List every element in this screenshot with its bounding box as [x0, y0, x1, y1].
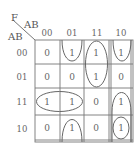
cell-r1-c3: 0: [118, 72, 124, 82]
row-header-10: 10: [17, 124, 28, 134]
row-header-00: 00: [17, 48, 28, 58]
row-header-01: 01: [17, 72, 28, 82]
cell-r0-c2: 1: [93, 48, 99, 58]
cell-r2-c1: 1: [69, 97, 75, 107]
cell-r1-c1: 0: [69, 72, 75, 82]
cell-r2-c0: 1: [44, 97, 50, 107]
col-header-00: 00: [42, 28, 53, 38]
cell-r3-c1: 1: [69, 123, 75, 133]
cell-r3-c3: 1: [118, 123, 124, 133]
col-header-01: 01: [67, 28, 78, 38]
row-variable-label: AB: [7, 31, 23, 42]
row-header-11: 11: [17, 97, 28, 107]
karnaugh-map: F AB AB 00 01 11 10 00 01 11 10 0 1 1 1 …: [0, 0, 138, 148]
cell-r0-c3: 1: [118, 48, 124, 58]
cell-r3-c2: 0: [93, 123, 99, 133]
output-label: F: [11, 12, 18, 23]
cell-r0-c0: 0: [44, 48, 50, 58]
cell-r2-c2: 0: [93, 97, 99, 107]
cell-r3-c0: 0: [44, 123, 50, 133]
cell-r1-c0: 0: [44, 72, 50, 82]
column-variable-label: AB: [23, 19, 39, 30]
cell-r0-c1: 1: [69, 48, 75, 58]
cell-r1-c2: 1: [93, 72, 99, 82]
cell-r2-c3: 1: [118, 97, 124, 107]
col-header-11: 11: [92, 28, 103, 38]
col-header-10: 10: [116, 28, 127, 38]
